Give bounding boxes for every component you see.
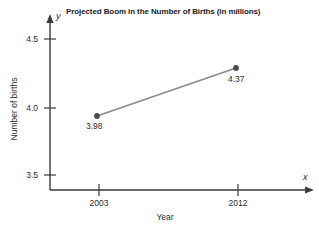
y-axis-variable-letter: y (56, 11, 61, 21)
data-line-series-0 (97, 68, 236, 116)
data-point-label-2003: 3.98 (86, 121, 103, 131)
x-tick-label-0: 2003 (79, 198, 119, 208)
y-axis-title: Number of births (9, 64, 19, 154)
chart-plot-area (0, 0, 319, 237)
x-tick-label-1: 2012 (218, 198, 258, 208)
chart-container: Projected Boom in the Number of Births (… (0, 0, 319, 237)
data-point-2012 (233, 65, 239, 71)
x-axis-variable-letter: x (303, 172, 308, 182)
x-axis-title: Year (130, 212, 200, 222)
x-axis-arrowhead (305, 186, 314, 193)
y-axis-arrowhead (46, 14, 53, 23)
data-point-2003 (94, 113, 100, 119)
y-tick-label-0: 4.5 (12, 34, 38, 44)
y-tick-label-2: 3.5 (12, 170, 38, 180)
data-point-label-2012: 4.37 (228, 74, 245, 84)
